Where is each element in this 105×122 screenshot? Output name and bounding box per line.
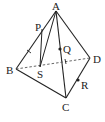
label-C: C: [62, 101, 69, 113]
tick-mark-BD: [65, 59, 66, 64]
edge-AB: [16, 11, 56, 69]
edge-BD-hidden: [16, 58, 90, 69]
label-A: A: [52, 0, 60, 12]
edge-CD: [66, 58, 90, 98]
tetrahedron-diagram: A B C D P Q R S: [0, 0, 105, 122]
label-Q: Q: [63, 43, 71, 55]
label-B: B: [6, 64, 13, 76]
label-P: P: [35, 21, 41, 33]
point-R: [76, 78, 79, 81]
label-D: D: [93, 53, 101, 65]
segment-AS: [40, 11, 56, 67]
label-R: R: [81, 79, 89, 91]
point-Q: [58, 47, 61, 50]
label-S: S: [37, 68, 43, 80]
